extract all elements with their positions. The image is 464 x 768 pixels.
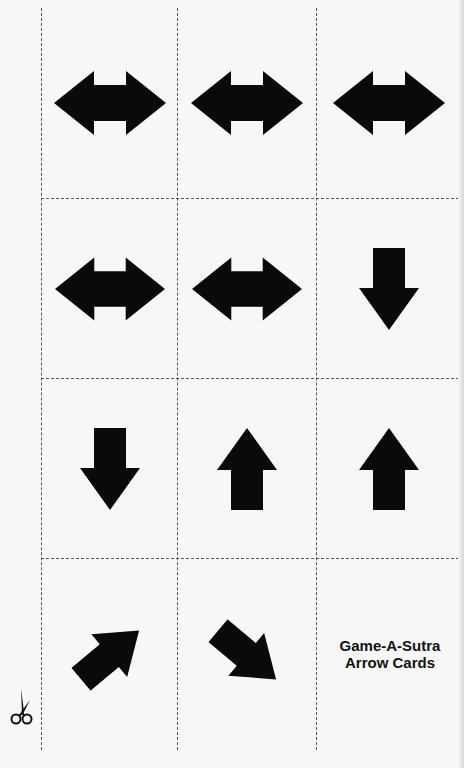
page-edge-shadow bbox=[458, 0, 464, 768]
card-r1c2 bbox=[178, 8, 316, 198]
card-r2c3 bbox=[317, 199, 460, 378]
card-r3c3 bbox=[317, 379, 460, 558]
double-arrow-horizontal-icon bbox=[54, 71, 166, 135]
card-r1c3 bbox=[317, 8, 460, 198]
arrow-up-right-icon bbox=[56, 601, 163, 708]
arrow-up-icon bbox=[217, 428, 277, 510]
title-card: Game-A-Sutra Arrow Cards bbox=[316, 558, 464, 750]
double-arrow-horizontal-icon bbox=[191, 71, 303, 135]
title-line-2: Arrow Cards bbox=[345, 654, 435, 671]
card-r4c1 bbox=[42, 559, 177, 750]
arrow-down-right-icon bbox=[193, 601, 300, 708]
arrow-down-icon bbox=[359, 248, 419, 330]
card-r3c1 bbox=[42, 379, 177, 558]
double-arrow-horizontal-icon bbox=[192, 257, 302, 321]
card-r2c2 bbox=[178, 199, 316, 378]
card-r3c2 bbox=[178, 379, 316, 558]
card-r2c1 bbox=[42, 199, 177, 378]
card-r4c2 bbox=[178, 559, 316, 750]
arrow-down-icon bbox=[80, 428, 140, 510]
scissors-icon bbox=[10, 688, 34, 732]
title-line-1: Game-A-Sutra bbox=[340, 637, 441, 654]
double-arrow-horizontal-icon bbox=[333, 71, 445, 135]
arrow-up-icon bbox=[359, 428, 419, 510]
card-r1c1 bbox=[42, 8, 177, 198]
double-arrow-horizontal-icon bbox=[55, 257, 165, 321]
